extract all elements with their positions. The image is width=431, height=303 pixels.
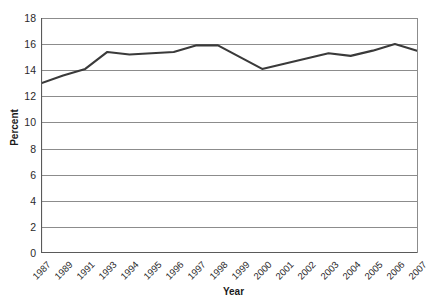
x-axis-title: Year — [0, 286, 431, 297]
x-axis-tick-labels: 1987198919911993199419951996199719981999… — [0, 0, 431, 303]
line-chart: Percent 024681012141618 1987198919911993… — [0, 0, 431, 303]
